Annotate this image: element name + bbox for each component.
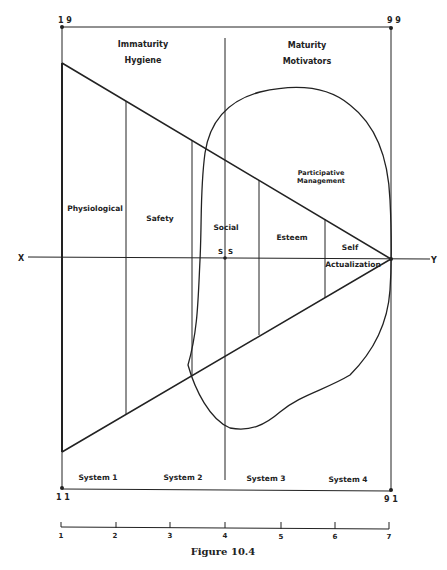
- label-actualization: Actualization: [325, 260, 380, 269]
- label-self: Self: [342, 243, 359, 252]
- label-social: Social: [213, 223, 238, 232]
- ruler-tick-2: 2: [113, 532, 118, 540]
- label-immaturity: Immaturity: [118, 40, 169, 49]
- label-system-2: System 2: [163, 473, 202, 482]
- diagram-figure-10-4: 1 9 9 9 1 1 9 1 Immaturity Hygiene Matur…: [0, 0, 447, 570]
- ruler-tick-1: 1: [59, 532, 64, 540]
- label-esteem: Esteem: [276, 233, 307, 242]
- bottom-border-line: [62, 489, 391, 491]
- label-system-1: System 1: [78, 473, 117, 482]
- label-participative: Participative: [298, 169, 345, 177]
- label-motivators: Motivators: [283, 57, 332, 66]
- ruler-tick-5: 5: [279, 533, 284, 541]
- label-hygiene: Hygiene: [125, 56, 163, 65]
- label-maturity: Maturity: [288, 41, 327, 50]
- figure-caption: Figure 10.4: [191, 546, 256, 557]
- ruler-tick-3: 3: [168, 532, 173, 540]
- label-system-3: System 3: [246, 474, 285, 483]
- label-management: Management: [297, 177, 345, 185]
- axis-label-y: Y: [430, 256, 437, 265]
- label-physiological: Physiological: [67, 204, 123, 213]
- x-y-axis-line: [28, 257, 430, 259]
- ruler-tick-4: 4: [223, 532, 228, 540]
- corner-dot-bottom-left: [60, 486, 64, 490]
- label-safety: Safety: [146, 214, 173, 223]
- corner-dot-top-right: [389, 26, 393, 30]
- center-label-s-left: S: [218, 248, 223, 256]
- corner-label-bottom-right: 9 1: [384, 495, 398, 504]
- ruler-tick-6: 6: [333, 533, 338, 541]
- corner-dot-bottom-right: [389, 488, 393, 492]
- center-label-s-right: S: [228, 248, 233, 256]
- corner-label-top-left: 1 9: [58, 16, 72, 25]
- scale-ruler-ticks: [61, 522, 389, 529]
- corner-label-top-right: 9 9: [387, 16, 401, 25]
- corner-dot-top-left: [60, 25, 64, 29]
- ruler-tick-7: 7: [387, 533, 392, 541]
- apex-dot: [389, 257, 393, 261]
- axis-label-x: X: [18, 254, 25, 263]
- label-system-4: System 4: [328, 475, 367, 484]
- center-dot: [223, 256, 227, 260]
- corner-label-bottom-left: 1 1: [56, 493, 70, 502]
